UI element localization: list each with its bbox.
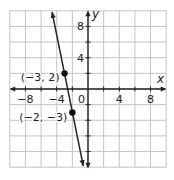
x-tick-label: −4 — [49, 93, 65, 106]
data-point — [69, 109, 75, 115]
origin-label: 0 — [78, 93, 85, 106]
y-tick-label: 4 — [77, 52, 84, 65]
y-axis-label: y — [91, 7, 100, 21]
coordinate-plane: −8−44884 x y 0 (−3, 2)(−2, −3) — [0, 0, 174, 180]
x-tick-label: 4 — [116, 93, 123, 106]
y-axis-arrow-down-icon — [85, 163, 90, 169]
y-tick-label: 8 — [77, 20, 84, 33]
axes — [9, 10, 166, 168]
point-label: (−3, 2) — [21, 71, 60, 84]
tick-labels: −8−44884 — [17, 20, 154, 106]
data-point — [61, 70, 67, 76]
x-tick-label: −8 — [17, 93, 33, 106]
x-axis-label: x — [156, 72, 165, 86]
point-label: (−2, −3) — [19, 111, 67, 124]
x-tick-label: 8 — [147, 93, 154, 106]
